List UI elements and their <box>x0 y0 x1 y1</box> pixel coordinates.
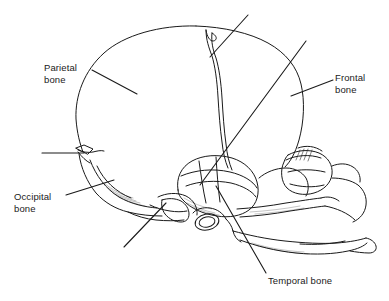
zygomatic-arch <box>237 198 321 209</box>
frontal-bone-region <box>196 26 303 167</box>
coronal-suture-inner <box>206 30 228 168</box>
mandible-shading <box>252 243 308 254</box>
temporal-inner-line-2 <box>216 157 220 202</box>
label-parietal-bone: Parietal bone <box>44 62 77 85</box>
occipital-condyle-region <box>150 205 187 212</box>
leader-line-unlabeled-mastoid <box>124 203 166 247</box>
orbit-eye-socket <box>282 151 333 195</box>
orbit-inner-line <box>288 170 325 172</box>
label-temporal-bone: Temporal bone <box>268 275 332 287</box>
squamous-suture <box>181 170 257 188</box>
cranial-vault-outline <box>76 26 196 152</box>
zygomatic-bone <box>321 197 339 201</box>
label-occipital-bone: Occipital bone <box>14 191 51 214</box>
orbit-floor <box>290 184 324 187</box>
external-acoustic-meatus-inner <box>198 215 216 228</box>
label-frontal-bone: Frontal bone <box>335 72 365 95</box>
skull-diagram-figure: Parietal bone Frontal bone Occipital bon… <box>0 0 389 301</box>
skull-illustration <box>0 0 389 301</box>
maxilla-lower <box>325 206 355 220</box>
leader-line-temporal <box>216 186 266 273</box>
leader-line-parietal <box>92 70 137 94</box>
leader-line-frontal <box>291 80 333 96</box>
coronal-suture <box>212 33 232 170</box>
leader-line-unlabeled-long-diagonal <box>200 41 306 185</box>
styloid-process <box>226 219 233 231</box>
mandible <box>233 231 366 243</box>
